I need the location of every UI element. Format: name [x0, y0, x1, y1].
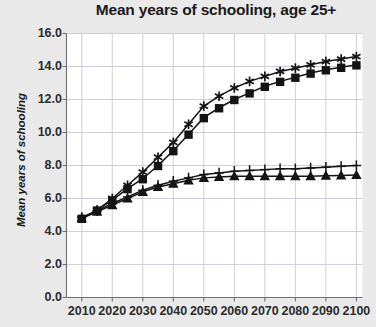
marker-square [215, 104, 223, 112]
marker-square [139, 175, 147, 183]
marker-square [245, 89, 253, 97]
chart-container: Mean years of schooling, age 25+ Mean ye… [0, 0, 376, 327]
marker-square [322, 66, 330, 74]
marker-square [230, 96, 238, 104]
marker-square [169, 147, 177, 155]
marker-square [337, 64, 345, 72]
marker-square [276, 78, 284, 86]
marker-square [200, 114, 208, 122]
marker-square [184, 130, 192, 138]
marker-square [352, 61, 360, 69]
marker-square [154, 162, 162, 170]
marker-square [261, 83, 269, 91]
marker-square [291, 74, 299, 82]
plot-area [0, 0, 376, 327]
marker-square [306, 69, 314, 77]
